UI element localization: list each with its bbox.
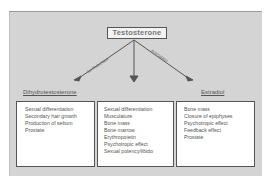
branch-title-estradiol: Estradiol [201,89,224,95]
box-estradiol-effects: Bone mass Closure of epiphyses Psychotro… [176,101,255,167]
effect-item: Psychotropic effect [104,141,173,148]
effect-item: Bone marrow [104,127,173,134]
effect-item: Secondary hair growth [25,113,94,120]
branch-title-dihydrotestosterone: Dihydrotestosterone [23,89,77,95]
effect-item: Closure of epiphyses [184,113,254,120]
arrowhead-middle [130,76,138,82]
effect-item: Psychotropic effect [184,120,254,127]
effect-item: Prostate [184,134,254,141]
effect-item: Bone mass [104,120,173,127]
box-testosterone-effects: Sexual differentiation Musculature Bone … [97,101,174,167]
effect-item: Prostate [25,127,94,134]
effect-item: Musculature [104,113,173,120]
effect-item: Feedback effect [184,127,254,134]
box-dihydrotestosterone-effects: Sexual differentiation Secondary hair gr… [16,101,95,167]
arrowhead-right [186,76,193,81]
testosterone-node: Testosterone [107,27,167,39]
effect-item: Bone mass [184,106,254,113]
effect-item: Erythropoietin [104,134,173,141]
effect-item: Production of sebum [25,120,94,127]
effect-item: Sexual potency/libido [104,148,173,155]
arrowhead-left [74,76,81,81]
effect-item: Sexual differentiation [25,106,94,113]
effect-item: Sexual differentiation [104,106,173,113]
